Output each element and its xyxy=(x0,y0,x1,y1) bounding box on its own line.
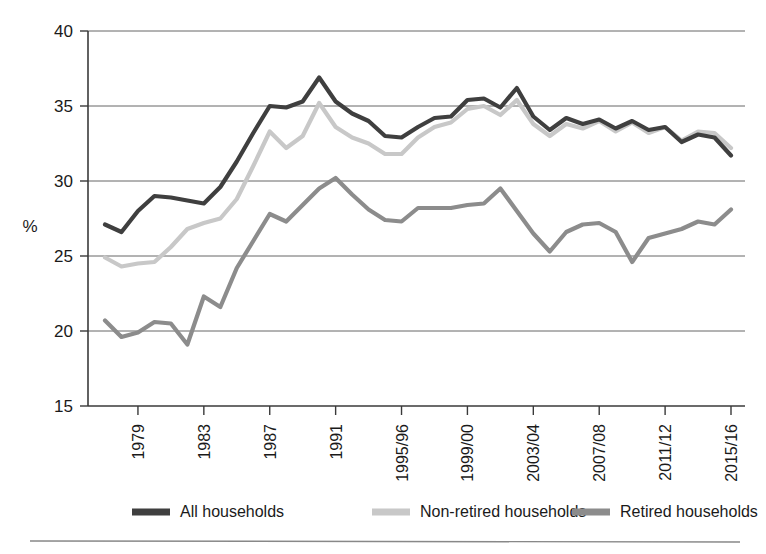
y-tick-label: 20 xyxy=(54,322,73,341)
chart-legend: All householdsNon-retired householdsReti… xyxy=(132,503,758,520)
y-axis-ticks-group: 152025303540 xyxy=(54,22,88,416)
y-tick-label: 25 xyxy=(54,247,73,266)
y-tick-label: 30 xyxy=(54,172,73,191)
chart-container: 152025303540 19791983198719911995/961999… xyxy=(0,0,766,554)
x-tick-label: 2011/12 xyxy=(657,424,674,481)
x-tick-label: 1991 xyxy=(328,424,345,460)
data-series-group xyxy=(105,78,731,345)
legend-item-label: Non-retired households xyxy=(420,503,586,520)
x-tick-label: 2007/08 xyxy=(591,424,608,482)
y-tick-label: 35 xyxy=(54,97,73,116)
legend-item-label: All households xyxy=(180,503,284,520)
x-axis-ticks-group: 19791983198719911995/961999/002003/04200… xyxy=(130,406,740,482)
x-tick-label: 1987 xyxy=(262,424,279,460)
x-tick-label: 1995/96 xyxy=(394,424,411,482)
gridlines-group xyxy=(88,31,745,331)
y-tick-label: 15 xyxy=(54,397,73,416)
x-tick-label: 2015/16 xyxy=(723,424,740,482)
y-tick-label: 40 xyxy=(54,22,73,41)
y-axis-title: % xyxy=(22,217,37,236)
x-tick-label: 2003/04 xyxy=(525,424,542,482)
legend-item-label: Retired households xyxy=(620,503,758,520)
x-tick-label: 1979 xyxy=(130,424,147,460)
footer-divider xyxy=(30,541,740,542)
line-chart: 152025303540 19791983198719911995/961999… xyxy=(0,0,766,554)
x-tick-label: 1999/00 xyxy=(459,424,476,482)
x-tick-label: 1983 xyxy=(196,424,213,460)
